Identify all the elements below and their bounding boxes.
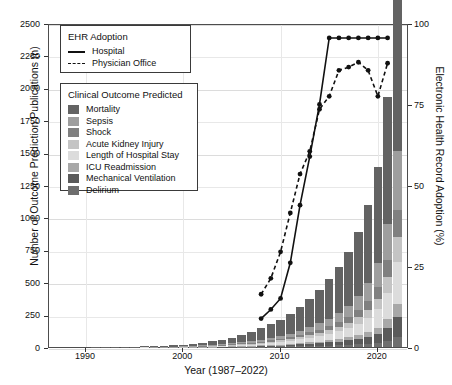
bar-segment (247, 341, 256, 343)
legend-color-swatch (68, 117, 79, 126)
legend-item-mortality: Mortality (68, 104, 190, 116)
bar-column (267, 324, 276, 347)
legend-item-label: Mechanical Ventilation (86, 173, 176, 184)
legend-item-label: Length of Hospital Stay (86, 150, 179, 161)
x-axis-label: Year (1987–2022) (0, 364, 452, 376)
bar-segment (267, 343, 276, 345)
data-point-marker (268, 307, 273, 312)
bar-segment (169, 345, 178, 346)
x-axis-tick-mark (85, 348, 86, 352)
bar-segment (315, 346, 324, 347)
bar-segment (315, 336, 324, 342)
bar-segment (198, 343, 207, 346)
bar-segment (364, 332, 373, 337)
data-point-marker (346, 36, 351, 41)
bar-segment (364, 310, 373, 318)
bar-segment (354, 335, 363, 339)
bar-segment (354, 339, 363, 345)
bar-column (393, 0, 402, 347)
bar-column (276, 320, 285, 347)
bar-segment (267, 340, 276, 341)
y-axis-tick-label-right: 0 (414, 344, 452, 353)
chart-figure: 0250500750100012501500175020002250250002… (0, 0, 452, 385)
data-point-marker (298, 172, 303, 177)
bar-segment (257, 346, 266, 347)
bar-segment (393, 0, 402, 151)
bar-segment (276, 320, 285, 336)
solid-line-icon (68, 47, 85, 56)
bar-segment (160, 346, 169, 347)
y-axis-tick-mark-left (44, 251, 48, 252)
bar-segment (267, 338, 276, 340)
bar-segment (276, 336, 285, 339)
bar-segment (286, 339, 295, 341)
bar-segment (228, 344, 237, 345)
bar-segment (354, 344, 363, 347)
data-point-marker (356, 36, 361, 41)
bar-segment (344, 306, 353, 317)
bar-segment (393, 337, 402, 347)
bar-segment (296, 343, 305, 344)
bar-column (344, 252, 353, 347)
bar-segment (364, 283, 373, 301)
legend-color-swatch (68, 186, 79, 195)
x-axis-tick-mark (280, 348, 281, 352)
bar-segment (228, 343, 237, 344)
bar-column (160, 346, 169, 347)
y-axis-tick-mark-right (408, 105, 412, 106)
bar-segment (296, 337, 305, 339)
y-axis-tick-mark-left (44, 348, 48, 349)
bar-segment (383, 97, 392, 224)
bar-column (150, 346, 159, 347)
legend-color-swatch (68, 163, 79, 172)
legend-color-swatch (68, 105, 79, 114)
bar-segment (286, 334, 295, 337)
bar-segment (335, 331, 344, 339)
bar-column (374, 167, 383, 347)
legend-item-sepsis: Sepsis (68, 116, 190, 128)
bar-segment (150, 346, 159, 347)
bar-segment (374, 263, 383, 288)
bar-column (383, 96, 392, 347)
bar-segment (325, 279, 334, 318)
bar-segment (305, 342, 314, 343)
bar-segment (218, 346, 227, 347)
bar-segment (364, 318, 373, 333)
bar-segment (237, 342, 246, 343)
y-axis-tick-mark-right (408, 267, 412, 268)
bar-column (247, 332, 256, 347)
bar-segment (286, 346, 295, 347)
bar-segment (247, 343, 256, 344)
bar-segment (325, 346, 334, 347)
bar-segment (305, 344, 314, 346)
bar-segment (364, 205, 373, 283)
y-axis-label-right: Electronic Health Record Adoption (%) (434, 26, 446, 286)
y-axis-tick-mark-left (44, 154, 48, 155)
bar-segment (179, 345, 188, 347)
bar-segment (257, 345, 266, 346)
bar-segment (189, 344, 198, 346)
bar-segment (344, 337, 353, 340)
bar-segment (198, 346, 207, 347)
legend-item-label: Shock (86, 127, 111, 138)
data-point-marker (356, 60, 361, 65)
x-axis-tick-mark (377, 348, 378, 352)
bar-segment (315, 323, 324, 329)
bar-column (208, 341, 217, 347)
gridline-horizontal (49, 349, 407, 350)
x-axis-tick-label: 2010 (270, 352, 290, 361)
bar-segment (383, 224, 392, 260)
bar-segment (344, 323, 353, 328)
legend-item-label: Physician Office (92, 58, 156, 69)
gridline-vertical (281, 25, 282, 347)
y-axis-tick-mark-right (408, 186, 412, 187)
legend-item-physician-office: Physician Office (68, 58, 183, 70)
bar-segment (257, 342, 266, 343)
bar-column (354, 232, 363, 347)
bar-segment (140, 346, 149, 347)
bar-segment (286, 345, 295, 346)
bar-segment (383, 341, 392, 347)
bar-segment (354, 232, 363, 297)
legend-item-shock: Shock (68, 127, 190, 139)
bar-segment (383, 319, 392, 327)
